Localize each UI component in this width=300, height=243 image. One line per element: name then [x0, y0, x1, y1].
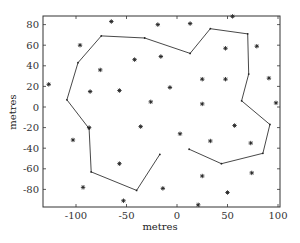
route-vertex [144, 37, 146, 39]
y-tick-label: -80 [23, 184, 39, 195]
x-tick-label: 100 [268, 210, 287, 221]
star-marker-icon [71, 138, 75, 142]
x-tick-label: -50 [118, 210, 134, 221]
star-marker-icon [232, 123, 236, 127]
star-marker-icon [117, 161, 121, 165]
star-marker-icon [168, 85, 172, 89]
star-marker-icon [109, 19, 113, 23]
y-axis-label: metres [7, 94, 18, 129]
star-marker-icon [274, 101, 278, 105]
y-tick-label: -40 [23, 143, 39, 154]
star-marker-icon [200, 77, 204, 81]
x-tick-label: 50 [221, 210, 234, 221]
star-marker-icon [87, 125, 91, 129]
y-tick-label: 60 [26, 40, 39, 51]
star-marker-icon [159, 54, 163, 58]
star-marker-icon [225, 190, 229, 194]
star-marker-icon [156, 22, 160, 26]
star-marker-icon [161, 186, 165, 190]
star-marker-icon [255, 44, 259, 48]
route-polyline [67, 29, 270, 191]
route-vertex [136, 190, 138, 192]
star-marker-icon [267, 76, 271, 80]
route-vertex [241, 100, 243, 102]
y-tick-label: 20 [26, 81, 39, 92]
star-marker-icon [196, 203, 200, 207]
route-vertex [221, 163, 223, 165]
star-marker-icon [78, 43, 82, 47]
route-vertex [248, 73, 250, 75]
route-vertex [209, 28, 211, 30]
star-marker-icon [47, 82, 51, 86]
y-tick-label: 40 [26, 60, 39, 71]
route-vertex [159, 153, 161, 155]
star-marker-icon [178, 132, 182, 136]
x-axis-label: metres [142, 221, 177, 232]
star-marker-icon [149, 100, 153, 104]
star-marker-icon [249, 141, 253, 145]
route-vertex [262, 152, 264, 154]
star-marker-icon [200, 102, 204, 106]
star-marker-icon [88, 89, 92, 93]
scatter-points [47, 14, 279, 207]
star-marker-icon [98, 68, 102, 72]
y-tick-label: -60 [23, 163, 39, 174]
route-vertex [189, 53, 191, 55]
scatter-chart: -100-50050100-80-60-40-20020406080 metre… [0, 0, 300, 243]
x-tick-label: -100 [65, 210, 87, 221]
y-tick-label: 80 [26, 19, 39, 30]
route-vertex [90, 171, 92, 173]
star-marker-icon [81, 185, 85, 189]
star-marker-icon [188, 21, 192, 25]
plot-frame [43, 16, 280, 207]
star-marker-icon [121, 199, 125, 203]
star-marker-icon [117, 88, 121, 92]
y-tick-label: -20 [23, 122, 39, 133]
star-marker-icon [223, 77, 227, 81]
star-marker-icon [223, 46, 227, 50]
x-tick-label: 0 [174, 210, 180, 221]
star-marker-icon [250, 171, 254, 175]
route-path [66, 28, 271, 192]
star-marker-icon [208, 139, 212, 143]
star-marker-icon [200, 174, 204, 178]
route-vertex [100, 35, 102, 37]
star-marker-icon [132, 57, 136, 61]
route-vertex [66, 99, 68, 101]
y-tick-label: 0 [33, 102, 39, 113]
route-vertex [269, 124, 271, 126]
route-vertex [188, 148, 190, 150]
star-marker-icon [138, 124, 142, 128]
route-vertex [77, 62, 79, 64]
route-vertex [247, 33, 249, 35]
